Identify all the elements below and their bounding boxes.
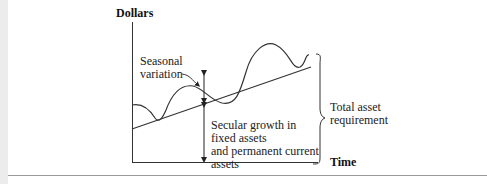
y-axis-label: Dollars: [116, 7, 153, 20]
x-axis-label: Time: [330, 156, 356, 169]
total-label-line2: requirement: [330, 114, 388, 127]
seasonal-label-line2: variation: [140, 68, 183, 81]
secular-label-line4: assets: [211, 158, 239, 171]
